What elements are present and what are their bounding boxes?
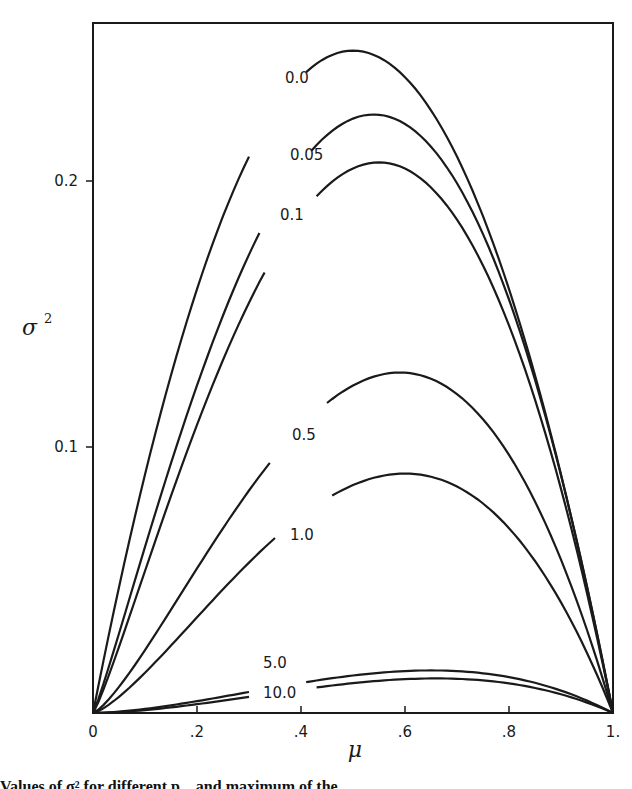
curve-5.0 (93, 692, 249, 713)
x-tick-label: 0 (88, 723, 98, 741)
curve-label: 1.0 (290, 526, 314, 544)
curve-label: 0.5 (292, 426, 316, 444)
curve-label: 0.1 (280, 206, 304, 224)
y-axis-title-base: σ (22, 315, 38, 340)
curves (93, 51, 613, 713)
curve-0.1 (93, 272, 265, 713)
curve-5.0 (306, 670, 613, 713)
figure-caption: Values of σ² for different p... and maxi… (0, 776, 632, 789)
curve-0.1 (317, 162, 613, 713)
curve-0.05 (311, 115, 613, 714)
curve-label: 10.0 (263, 684, 296, 702)
y-tick-label: 0.1 (54, 438, 78, 456)
x-tick-label: .8 (502, 723, 516, 741)
curve-label: 0.0 (285, 69, 309, 87)
x-axis-title: μ (348, 737, 362, 762)
curve-labels: 0.00.050.10.51.05.010.0 (263, 69, 323, 702)
curve-label: 0.05 (290, 146, 323, 164)
curve-0.0 (93, 157, 249, 713)
curve-1.0 (332, 474, 613, 713)
y-axis-title: σ 2 (22, 311, 52, 340)
curve-label: 5.0 (263, 654, 287, 672)
x-tick-label: .6 (398, 723, 412, 741)
y-axis-title-superscript: 2 (44, 311, 52, 326)
x-tick-label: .4 (294, 723, 308, 741)
curve-0.5 (327, 373, 613, 714)
x-tick-label: .2 (190, 723, 204, 741)
y-tick-label: 0.2 (54, 172, 78, 190)
x-tick-label: 1. (606, 723, 620, 741)
axis-ticks: 0.2.4.6.81.0.10.2 (54, 172, 620, 741)
chart: 0.2.4.6.81.0.10.2 0.00.050.10.51.05.010.… (0, 0, 632, 789)
curve-10.0 (317, 678, 613, 713)
